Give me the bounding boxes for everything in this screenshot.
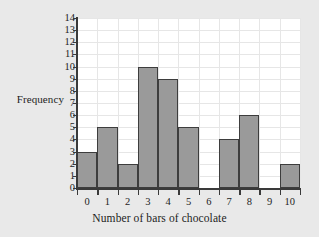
x-axis-tick-labels: 012345678910 [77,196,300,210]
bar [138,67,158,188]
x-axis-tick-marks [77,190,300,195]
x-axis-tick-label: 5 [186,196,191,208]
x-axis-tick-mark [178,190,179,195]
bar [219,139,239,188]
x-axis-tick-mark [300,190,301,195]
bar [239,115,259,188]
x-axis-tick-label: 3 [145,196,150,208]
plot-area [77,18,300,188]
x-axis-tick-mark [158,190,159,195]
x-axis-tick-mark [118,190,119,195]
x-axis-tick-label: 7 [226,196,231,208]
x-axis-tick-label: 2 [125,196,130,208]
x-axis-tick-mark [97,190,98,195]
bar [178,127,198,188]
x-axis-tick-mark [239,190,240,195]
bar [280,164,300,188]
x-axis-tick-label: 6 [206,196,211,208]
x-axis-tick-label: 1 [105,196,110,208]
x-axis-tick-label: 4 [166,196,171,208]
x-axis-tick-mark [199,190,200,195]
x-axis-tick-mark [259,190,260,195]
bar [158,79,178,188]
bar [118,164,138,188]
x-axis-tick-mark [280,190,281,195]
x-axis-tick-label: 0 [85,196,90,208]
x-axis-tick-label: 9 [267,196,272,208]
histogram-chart: Frequency 01234567891011121314 012345678… [0,0,319,237]
x-axis-tick-mark [219,190,220,195]
x-axis-title: Number of bars of chocolate [0,212,319,224]
bars-layer [77,18,300,188]
x-axis-tick-label: 10 [285,196,296,208]
bar [97,127,117,188]
x-axis-tick-mark [77,190,78,195]
x-axis-tick-mark [138,190,139,195]
y-axis-line [76,17,78,189]
gridline-vertical [300,18,301,188]
x-axis-tick-label: 8 [247,196,252,208]
y-axis-title: Frequency [4,93,64,105]
bar [77,152,97,188]
